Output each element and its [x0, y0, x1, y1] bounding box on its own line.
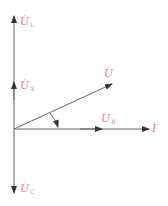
label-ul: ·UL: [20, 16, 34, 28]
label-ux: ·UX: [20, 80, 35, 92]
angle-arc: [50, 113, 58, 127]
label-uc: ·UC: [20, 183, 35, 195]
label-ur: ·UR: [101, 113, 116, 125]
label-u: ·U: [104, 68, 113, 79]
label-i: ·I: [152, 123, 156, 134]
phasor-diagram: [0, 0, 168, 206]
